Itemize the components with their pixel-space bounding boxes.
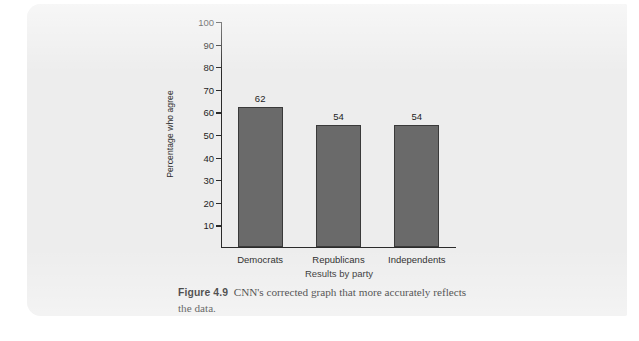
bar-republicans (316, 125, 361, 247)
y-axis-tick-label: 30 (203, 175, 214, 186)
y-axis-tick (216, 180, 221, 181)
bar-democrats (238, 107, 283, 247)
y-axis-tick-label: 60 (203, 107, 214, 118)
y-axis-tick-label: 40 (203, 152, 214, 163)
y-axis-tick-label: 70 (203, 84, 214, 95)
y-axis-tick-label: 80 (203, 62, 214, 73)
y-axis-tick-label: 10 (203, 220, 214, 231)
y-axis-tick (216, 22, 221, 23)
bar-independents (394, 125, 439, 247)
y-axis-tick (216, 112, 221, 113)
plot-area: 10203040506070809010062Democrats54Republ… (221, 22, 463, 248)
y-axis-line (221, 22, 222, 248)
y-axis-tick (216, 90, 221, 91)
bar-value-label: 62 (255, 93, 266, 104)
y-axis-tick-label: 100 (198, 17, 214, 28)
x-axis-category-label: Democrats (237, 254, 283, 265)
y-axis-title: Percentage who agree (165, 90, 175, 178)
x-axis-category-label: Republicans (312, 254, 364, 265)
y-axis-tick (216, 67, 221, 68)
y-axis-tick-label: 90 (203, 39, 214, 50)
figure-block: Percentage who agree 1020304050607080901… (27, 4, 627, 316)
y-axis-tick (216, 135, 221, 136)
y-axis-tick (216, 225, 221, 226)
book-page-sheet: Percentage who agree 1020304050607080901… (27, 4, 627, 316)
bar-value-label: 54 (412, 111, 423, 122)
y-axis-tick (216, 158, 221, 159)
bar-chart: Percentage who agree 1020304050607080901… (177, 16, 487, 278)
figure-caption: Figure 4.9 CNN's corrected graph that mo… (178, 285, 478, 315)
y-axis-tick (216, 203, 221, 204)
x-axis-category-label: Independents (388, 254, 446, 265)
y-axis-tick-label: 50 (203, 130, 214, 141)
y-axis-tick-label: 20 (203, 197, 214, 208)
bar-value-label: 54 (333, 111, 344, 122)
y-axis-tick (216, 45, 221, 46)
x-axis-title: Results by party (305, 268, 373, 279)
figure-caption-label: Figure 4.9 (178, 287, 228, 298)
